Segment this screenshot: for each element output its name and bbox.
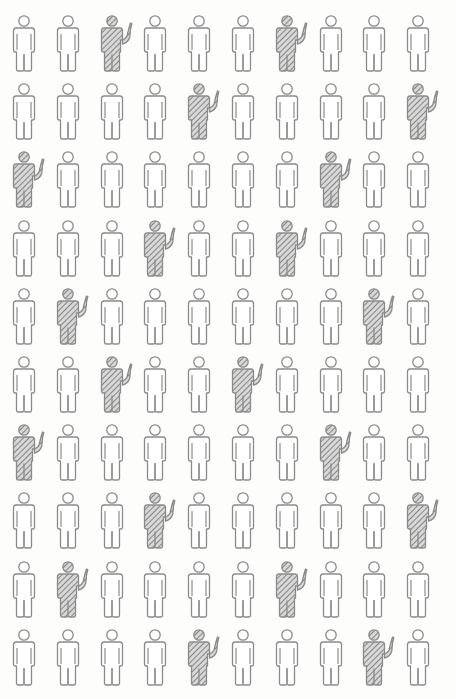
person-icon [133, 556, 177, 624]
person-icon [46, 215, 90, 283]
person-icon [396, 556, 440, 624]
person-icon [309, 624, 353, 692]
person-icon-highlighted [309, 146, 353, 214]
person-icon-highlighted [133, 215, 177, 283]
person-icon [133, 10, 177, 78]
person-icon [90, 556, 134, 624]
person-icon [265, 487, 309, 555]
person-icon-highlighted [221, 351, 265, 419]
person-icon [177, 487, 221, 555]
person-icon [396, 215, 440, 283]
person-icon [46, 146, 90, 214]
person-icon [177, 10, 221, 78]
person-icon [265, 78, 309, 146]
person-icon [2, 78, 46, 146]
person-icon-highlighted [2, 146, 46, 214]
person-icon [265, 146, 309, 214]
person-icon-highlighted [46, 283, 90, 351]
person-icon [352, 419, 396, 487]
person-icon [265, 419, 309, 487]
person-icon [352, 146, 396, 214]
person-icon [90, 78, 134, 146]
person-icon [221, 10, 265, 78]
person-icon [177, 419, 221, 487]
person-icon [133, 624, 177, 692]
person-icon [352, 78, 396, 146]
person-icon [2, 283, 46, 351]
person-icon-highlighted [352, 624, 396, 692]
person-icon [90, 624, 134, 692]
person-icon [177, 283, 221, 351]
person-icon-highlighted [90, 10, 134, 78]
person-icon-highlighted [396, 78, 440, 146]
person-icon [396, 10, 440, 78]
person-icon [46, 351, 90, 419]
person-icon-highlighted [309, 419, 353, 487]
person-icon [265, 283, 309, 351]
person-icon-highlighted [265, 10, 309, 78]
person-icon [2, 556, 46, 624]
person-icon-highlighted [352, 283, 396, 351]
person-icon [221, 215, 265, 283]
person-icon [309, 283, 353, 351]
person-icon [309, 487, 353, 555]
pictogram-grid [0, 0, 456, 699]
person-icon-highlighted [177, 78, 221, 146]
person-icon [352, 215, 396, 283]
person-icon [221, 283, 265, 351]
person-icon [309, 351, 353, 419]
person-icon [46, 419, 90, 487]
person-icon [46, 624, 90, 692]
person-icon [309, 10, 353, 78]
person-icon-highlighted [396, 487, 440, 555]
person-icon-highlighted [177, 624, 221, 692]
person-icon [221, 556, 265, 624]
person-icon [221, 419, 265, 487]
person-icon [396, 624, 440, 692]
person-icon [352, 351, 396, 419]
person-icon [177, 351, 221, 419]
person-icon [2, 10, 46, 78]
person-icon [352, 487, 396, 555]
person-icon [133, 146, 177, 214]
person-icon [2, 351, 46, 419]
person-icon [177, 556, 221, 624]
person-icon [90, 215, 134, 283]
person-icon [309, 215, 353, 283]
person-icon [177, 146, 221, 214]
person-icon-highlighted [90, 351, 134, 419]
person-icon [396, 351, 440, 419]
person-icon [396, 283, 440, 351]
person-icon [221, 78, 265, 146]
person-icon [90, 419, 134, 487]
person-icon [2, 215, 46, 283]
person-icon [221, 487, 265, 555]
person-icon [221, 146, 265, 214]
person-icon [309, 78, 353, 146]
person-icon [133, 419, 177, 487]
person-icon-highlighted [133, 487, 177, 555]
person-icon [352, 10, 396, 78]
person-icon [309, 556, 353, 624]
person-icon-highlighted [265, 556, 309, 624]
person-icon-highlighted [46, 556, 90, 624]
person-icon [396, 146, 440, 214]
person-icon [46, 78, 90, 146]
person-icon [90, 487, 134, 555]
person-icon [133, 351, 177, 419]
person-icon [265, 624, 309, 692]
person-icon [2, 624, 46, 692]
person-icon [133, 78, 177, 146]
person-icon [90, 283, 134, 351]
person-icon [46, 10, 90, 78]
person-icon [46, 487, 90, 555]
person-icon [221, 624, 265, 692]
person-icon-highlighted [265, 215, 309, 283]
person-icon-highlighted [2, 419, 46, 487]
person-icon [352, 556, 396, 624]
person-icon [265, 351, 309, 419]
person-icon [396, 419, 440, 487]
person-icon [90, 146, 134, 214]
person-icon [2, 487, 46, 555]
person-icon [133, 283, 177, 351]
